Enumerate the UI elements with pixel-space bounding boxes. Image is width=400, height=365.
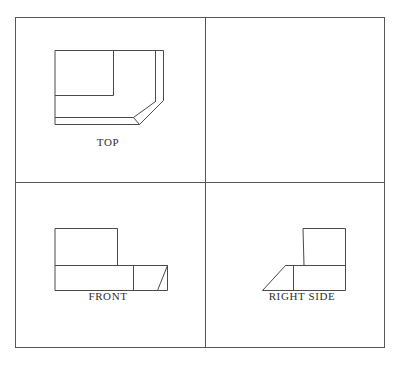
- front-view-label: FRONT: [88, 290, 127, 302]
- right-side-view-group: RIGHT SIDE: [263, 229, 346, 303]
- right-side-view-outline: [263, 229, 346, 291]
- top-view-outline: [56, 51, 164, 125]
- front-view-group: FRONT: [56, 229, 168, 303]
- top-view-label: TOP: [97, 136, 119, 148]
- drawing-sheet: TOP FRONT RIGHT SIDE: [0, 0, 400, 365]
- top-view-inner-step-edge: [56, 51, 114, 96]
- top-view-group: TOP: [56, 51, 164, 149]
- orthographic-drawing-canvas: TOP FRONT RIGHT SIDE: [0, 0, 400, 365]
- top-view-chamfer-corner-line: [134, 118, 140, 125]
- front-view-outline: [56, 229, 168, 291]
- front-view-chamfer-angled-edge: [158, 266, 168, 291]
- top-view-chamfer-band-line: [56, 102, 156, 118]
- right-side-view-label: RIGHT SIDE: [269, 290, 336, 302]
